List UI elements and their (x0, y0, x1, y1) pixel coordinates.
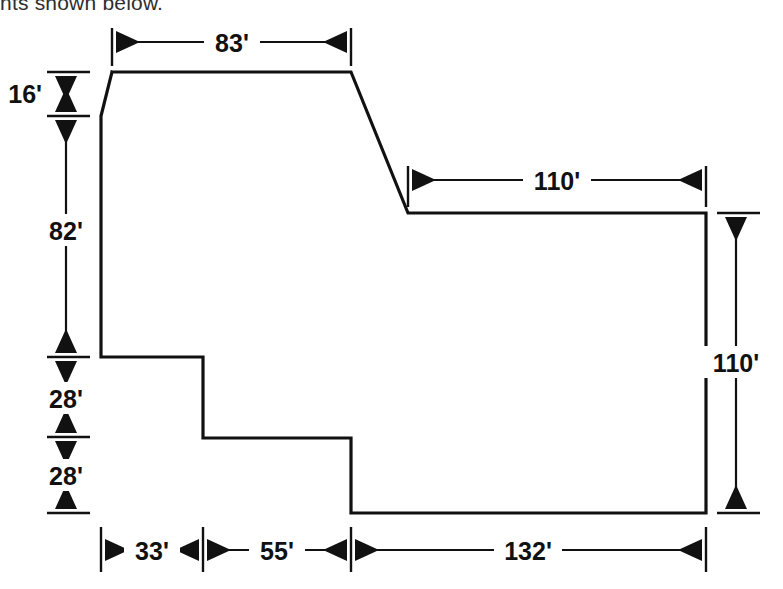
dimension-left-28-upper: 28' (38, 361, 94, 437)
dimension-mid-110: 110' (408, 165, 706, 207)
dimension-label-left-82: 82' (49, 217, 83, 245)
lot-outline-polygon (101, 72, 706, 513)
dimension-left-82: 82' (38, 120, 94, 357)
dimension-right-110: 110' (702, 213, 770, 513)
lot-plan-drawing: 83' 16' 82' 28' 28' (0, 0, 783, 589)
dimension-left-28-lower: 28' (38, 441, 94, 513)
dimension-left-16: 16' (8, 72, 90, 116)
figure-caption: nts shown below. (0, 0, 163, 15)
dimension-label-bottom-132: 132' (504, 537, 552, 565)
figure-root: nts shown below. 83' 16' (0, 0, 783, 589)
dimension-label-left-16: 16' (8, 80, 42, 108)
dimension-label-bottom-55: 55' (260, 537, 294, 565)
dimension-label-top-83: 83' (215, 29, 249, 57)
dimension-label-left-28-upper: 28' (49, 385, 83, 413)
dimension-label-mid-110: 110' (534, 167, 580, 195)
dimension-top-83: 83' (112, 27, 351, 66)
dimension-label-left-28-lower: 28' (49, 462, 83, 490)
dimension-bottom-chain: 33' 55' 132' (101, 527, 706, 572)
dimension-label-bottom-33: 33' (135, 537, 169, 565)
dimension-label-right-110: 110' (713, 349, 759, 377)
